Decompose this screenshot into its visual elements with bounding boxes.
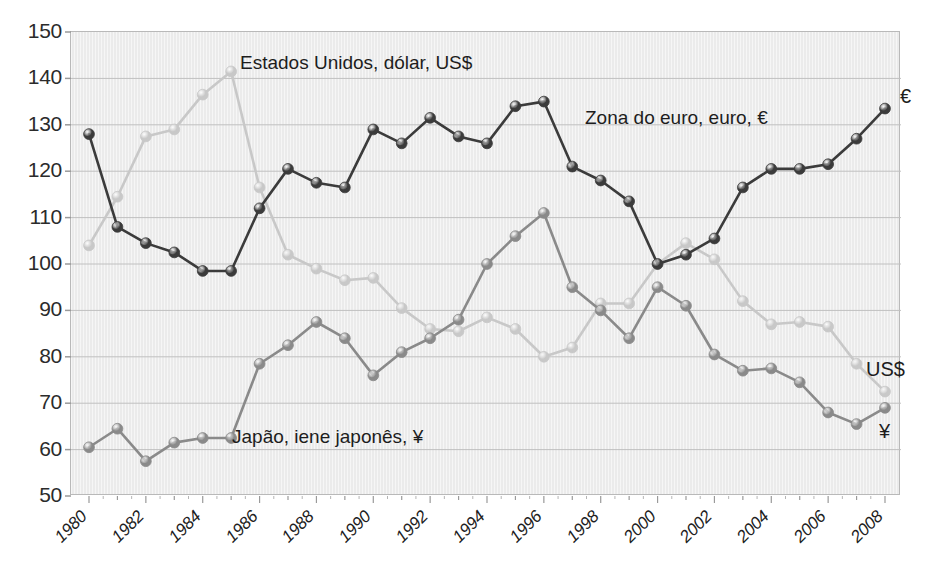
x-axis-tick-label: 2004 <box>733 507 773 547</box>
x-axis-tick-label: 1986 <box>222 507 262 547</box>
x-axis-tick-label: 2000 <box>620 507 660 547</box>
chart-page: 5060708090100110120130140150 19801982198… <box>0 0 937 573</box>
series-end-label: US$ <box>866 358 905 381</box>
series-annotation-label: Estados Unidos, dólar, US$ <box>240 52 472 74</box>
x-axis-tick-label: 1990 <box>335 507 375 547</box>
x-axis-tick-label: 2006 <box>790 507 830 547</box>
x-axis-tick-label: 1984 <box>165 507 205 547</box>
x-axis-tick-label: 2008 <box>847 507 887 547</box>
x-axis-tick-label: 1982 <box>108 507 148 547</box>
x-axis-tick-label: 2002 <box>676 507 716 547</box>
series-annotation-label: Japão, iene japonês, ¥ <box>232 426 423 448</box>
x-axis-tick-label: 1998 <box>563 507 603 547</box>
series-end-label: ¥ <box>879 420 890 443</box>
x-axis-tick-label: 1988 <box>278 507 318 547</box>
series-annotation-label: Zona do euro, euro, € <box>585 107 768 129</box>
x-axis-tick-label: 1994 <box>449 507 489 547</box>
x-axis: 1980198219841986198819901992199419961998… <box>0 0 937 573</box>
x-axis-tick-label: 1996 <box>506 507 546 547</box>
x-axis-tick-label: 1992 <box>392 507 432 547</box>
x-axis-tick-label: 1980 <box>51 507 91 547</box>
series-end-label: € <box>900 85 911 108</box>
